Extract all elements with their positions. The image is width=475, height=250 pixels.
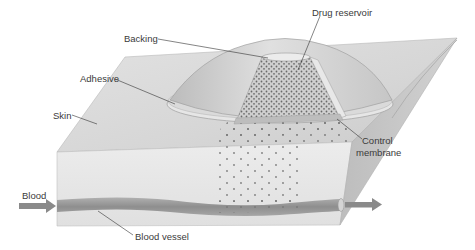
transdermal-patch-diagram: Drug reservoir Backing Adhesive Skin Con…	[0, 0, 475, 250]
diffusion-column	[215, 140, 300, 206]
label-skin: Skin	[53, 110, 71, 121]
label-drug-reservoir: Drug reservoir	[312, 7, 372, 18]
blood-flow-in-arrow	[19, 199, 56, 213]
diagram-canvas	[0, 0, 475, 250]
label-adhesive: Adhesive	[80, 73, 119, 84]
label-backing: Backing	[124, 33, 158, 44]
blood-vessel-opening	[338, 199, 344, 212]
reservoir-top-opening	[262, 53, 310, 61]
label-control-membrane-line2: membrane	[356, 147, 401, 158]
label-blood: Blood	[22, 190, 46, 201]
vessel-dots	[215, 199, 300, 213]
label-blood-vessel: Blood vessel	[135, 231, 189, 242]
label-control-membrane-line1: Control	[362, 135, 393, 146]
